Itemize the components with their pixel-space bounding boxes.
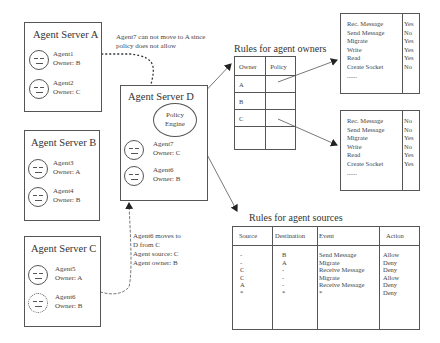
source-column: --CCA* bbox=[240, 251, 245, 297]
agent-icon bbox=[28, 265, 48, 285]
policy-cell bbox=[266, 127, 296, 150]
table-row: C bbox=[235, 110, 296, 127]
agent-label: Agent6Owner: B bbox=[153, 166, 180, 184]
agent-label: Agent1Owner: B bbox=[53, 50, 80, 68]
owner-cell bbox=[235, 127, 266, 150]
policy-box-owner-c: Rec. MessageSend MessageMigrateWriteRead… bbox=[340, 110, 420, 191]
agent-server-c: Agent Server C Agent5Owner: A Agent6Owne… bbox=[24, 236, 101, 327]
owner-cell: C bbox=[235, 110, 266, 127]
permission-names: Rec. MessageSend MessageMigrateWriteRead… bbox=[347, 117, 384, 177]
server-title: Agent Server A bbox=[33, 29, 98, 40]
permission-names: Rec. MessageSend MessageMigrateWriteRead… bbox=[347, 20, 384, 80]
policy-cell bbox=[266, 93, 296, 110]
denied-move-note: Agent7 can not move to A since policy do… bbox=[116, 33, 205, 51]
table-row bbox=[235, 127, 296, 150]
agent-label: Agent4Owner: B bbox=[53, 187, 80, 205]
destination-column: BA---* bbox=[282, 251, 287, 297]
source-rules-title: Rules for agent sources bbox=[249, 212, 343, 223]
agent-server-d: Agent Server D Agent7Owner: C Agent6Owne… bbox=[120, 85, 208, 201]
agent-icon bbox=[29, 79, 49, 99]
header-cell: Owner bbox=[235, 57, 266, 76]
departed-agent-icon bbox=[28, 293, 48, 313]
policy-engine: PolicyEngine bbox=[153, 103, 197, 137]
header-cell: Destination bbox=[275, 232, 305, 239]
header-cell: Event bbox=[319, 232, 334, 239]
agent-label: Agent2Owner: C bbox=[53, 79, 80, 97]
owner-cell: A bbox=[235, 76, 266, 93]
agent-server-b: Agent Server B Agent3Owner: A Agent4Owne… bbox=[24, 130, 100, 221]
agent-icon bbox=[28, 159, 48, 179]
header-cell: Action bbox=[386, 232, 404, 239]
event-column: Send MessageMigrateReceive MessageMigrat… bbox=[319, 251, 364, 297]
agent-icon bbox=[124, 166, 144, 186]
agent-label: Agent6Owner: B bbox=[55, 293, 82, 311]
agent-label: Agent3Owner: A bbox=[53, 159, 80, 177]
server-title: Agent Server C bbox=[31, 243, 96, 254]
policy-engine-label: Policy bbox=[154, 111, 196, 120]
table-row: A bbox=[235, 76, 296, 93]
owner-rules-table: Owner Policy A B C bbox=[234, 56, 296, 150]
policy-cell bbox=[266, 76, 296, 93]
table-row: B bbox=[235, 93, 296, 110]
table-header-row: Owner Policy bbox=[235, 57, 296, 76]
move-note: Agent6 moves to D from C Agent source: C… bbox=[133, 232, 181, 268]
agent-icon bbox=[28, 187, 48, 207]
permission-values: YesNoYesYesYesNo bbox=[404, 20, 413, 72]
agent-label: Agent5Owner: A bbox=[55, 265, 82, 283]
action-column: AllowDenyDenyAllowDenyDeny bbox=[383, 251, 399, 297]
agent-icon bbox=[29, 50, 49, 70]
server-title: Agent Server D bbox=[128, 91, 194, 102]
agent-icon bbox=[124, 140, 144, 160]
server-title: Agent Server B bbox=[31, 137, 96, 148]
source-rules-table: Source Destination Event Action --CCA* B… bbox=[232, 226, 420, 330]
owner-cell: B bbox=[235, 93, 266, 110]
header-cell: Source bbox=[239, 232, 257, 239]
agent-server-a: Agent Server A Agent1Owner: B Agent2Owne… bbox=[24, 22, 102, 112]
header-cell: Policy bbox=[266, 57, 296, 76]
permission-values: NoNoYesNoYesYes bbox=[404, 117, 413, 169]
owner-rules-title: Rules for agent owners bbox=[234, 43, 326, 54]
policy-cell bbox=[266, 110, 296, 127]
agent-label: Agent7Owner: C bbox=[153, 140, 180, 158]
policy-box-owner-a: Rec. MessageSend MessageMigrateWriteRead… bbox=[340, 13, 420, 94]
